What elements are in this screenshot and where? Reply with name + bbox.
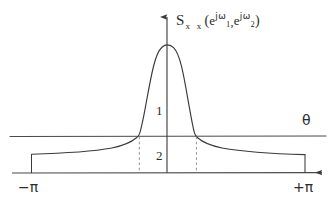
exponent-second: jω: [240, 11, 251, 21]
figure-container: Sx x(ejω1,ejω2) θ 1 2 −π +π: [0, 0, 334, 202]
function-name-label: Sx x(ejω1,ejω2): [176, 12, 260, 31]
function-symbol: S: [176, 12, 185, 28]
theta-axis-label: θ: [302, 113, 311, 127]
spectral-density-plot: [0, 0, 334, 202]
region-lower-label: 2: [156, 149, 163, 162]
exponent-first: jω: [215, 11, 226, 21]
theta-axis-line: [10, 136, 326, 137]
close-paren: ): [255, 13, 260, 28]
region-upper-label: 1: [156, 104, 163, 117]
tick-label-positive-pi: +π: [293, 180, 313, 194]
spectral-density-curve: [32, 45, 306, 155]
function-subscript: x x: [185, 21, 205, 31]
tick-label-negative-pi: −π: [18, 180, 38, 194]
